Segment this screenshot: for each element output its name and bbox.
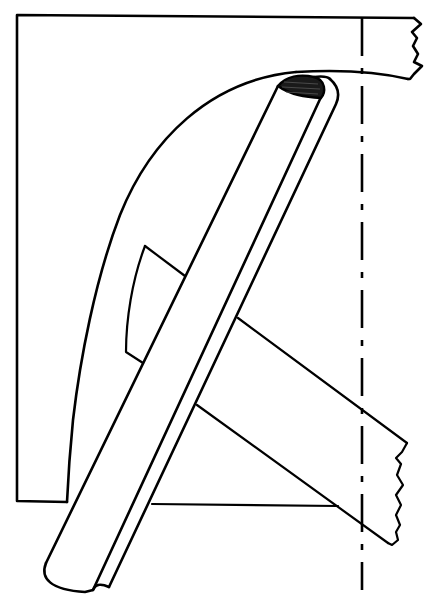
crossing-bar-lower-edge (197, 405, 388, 543)
small-curved-segment-arc (126, 246, 145, 363)
plate-outline (17, 15, 414, 502)
small-curved-segment (145, 246, 185, 276)
diagram-canvas (0, 0, 436, 613)
crossing-bar-bottom-line (152, 504, 338, 506)
upper-bar-broken-end (408, 18, 422, 79)
rod-right-edge (109, 79, 338, 587)
rod-left-edge (46, 86, 278, 563)
crossing-bar-upper-edge (238, 318, 407, 443)
crossing-bar-broken-end (388, 443, 407, 545)
